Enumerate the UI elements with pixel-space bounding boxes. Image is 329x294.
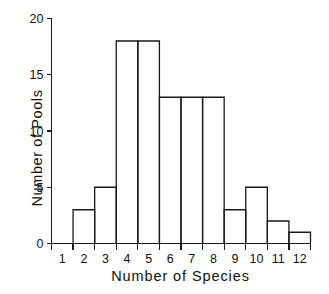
histogram-bar [203,97,225,243]
x-tick-label: 9 [231,252,238,266]
y-tick-label: 5 [37,181,44,195]
histogram-bar [267,221,289,244]
x-tick-label: 12 [293,252,307,266]
bars-group [73,41,310,244]
x-axis-title: Number of Species [51,268,310,284]
ticks-group [47,19,311,250]
x-tick-label: 8 [210,252,217,266]
y-tick-label: 10 [30,125,44,139]
histogram-bar [289,232,311,243]
y-tick-label: 15 [30,68,44,82]
y-tick-label: 20 [30,12,44,26]
x-tick-label: 5 [145,252,152,266]
x-tick-labels: 123456789101112 [59,252,307,266]
plot-area: 05101520 123456789101112 [0,0,329,294]
histogram-bar [224,210,246,244]
x-tick-label: 7 [188,252,195,266]
histogram-bar [181,97,203,243]
x-tick-label: 3 [102,252,109,266]
y-tick-label: 0 [37,237,44,251]
histogram-bar [138,41,160,244]
histogram-bar [159,97,181,243]
x-tick-label: 1 [59,252,66,266]
x-tick-label: 2 [80,252,87,266]
x-tick-label: 4 [124,252,131,266]
histogram-bar [116,41,138,244]
histogram-bar [73,210,95,244]
histogram-figure: Number of Pools 05101520 123456789101112… [0,0,329,294]
histogram-bar [95,187,117,243]
x-tick-label: 6 [167,252,174,266]
histogram-bar [246,187,268,243]
x-tick-label: 11 [272,252,285,266]
x-tick-label: 10 [250,252,264,266]
y-tick-labels: 05101520 [30,12,44,251]
